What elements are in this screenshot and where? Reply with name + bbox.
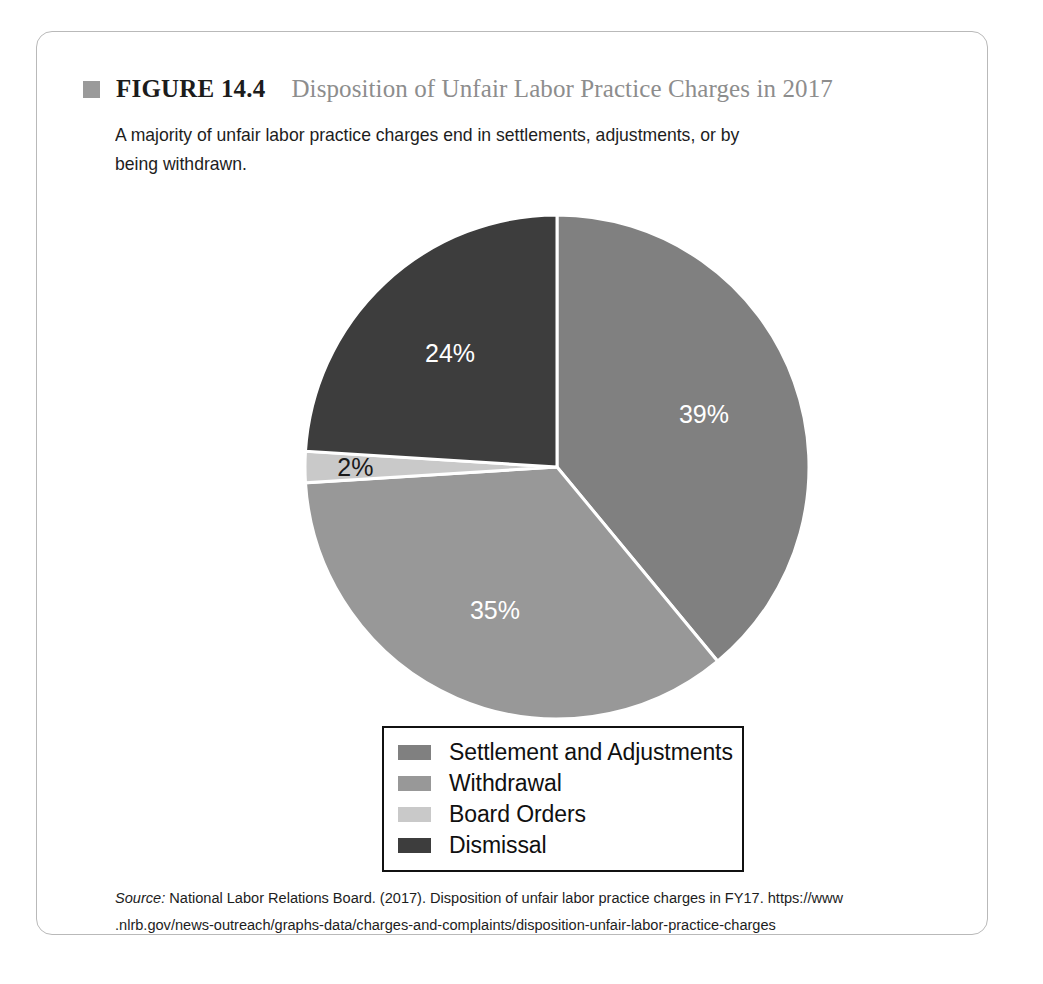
legend-label: Withdrawal [449,770,562,797]
pie-slice-label: 39% [679,400,729,428]
figure-caption: A majority of unfair labor practice char… [115,120,780,178]
source-citation: National Labor Relations Board. (2017). … [115,889,843,933]
figure-source: Source: National Labor Relations Board. … [115,884,942,938]
legend-item: Settlement and Adjustments [398,737,730,768]
legend-label: Settlement and Adjustments [449,739,733,766]
figure-title: Disposition of Unfair Labor Practice Cha… [291,75,832,103]
figure-bullet-icon [83,81,100,98]
pie-slice-label: 35% [470,596,520,624]
legend-swatch-icon [398,838,431,853]
legend-swatch-icon [398,807,431,822]
legend-label: Board Orders [449,801,586,828]
figure-card: FIGURE 14.4 Disposition of Unfair Labor … [36,31,988,935]
legend-label: Dismissal [449,832,547,859]
legend-swatch-icon [398,745,431,760]
legend-swatch-icon [398,776,431,791]
figure-header: FIGURE 14.4 Disposition of Unfair Labor … [83,74,833,104]
pie-slice-label: 2% [337,453,373,481]
pie-slice-label: 24% [425,339,475,367]
legend-item: Withdrawal [398,768,730,799]
chart-legend: Settlement and AdjustmentsWithdrawalBoar… [382,726,744,872]
pie-chart: 39%35%2%24% [302,212,812,722]
legend-item: Board Orders [398,799,730,830]
source-label: Source: [115,889,165,906]
figure-number: FIGURE 14.4 [116,75,265,103]
pie-chart-svg: 39%35%2%24% [302,212,812,722]
legend-item: Dismissal [398,830,730,861]
pie-slices [305,215,809,719]
